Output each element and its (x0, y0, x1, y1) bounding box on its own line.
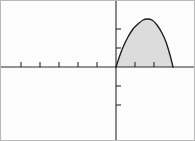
plot-canvas (0, 0, 195, 141)
figure-root (0, 0, 195, 141)
